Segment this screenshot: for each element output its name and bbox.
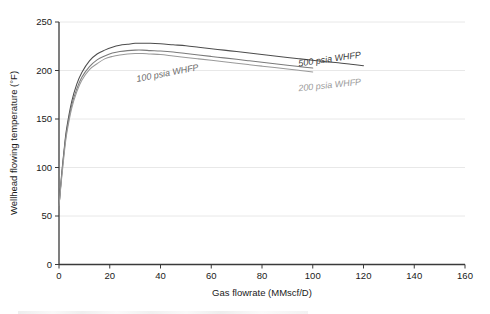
y-tick-label-250: 250: [36, 16, 52, 27]
y-tick-label-0: 0: [47, 259, 52, 270]
x-tick-label-20: 20: [104, 270, 115, 281]
x-tick-label-120: 120: [356, 270, 372, 281]
x-tick-label-40: 40: [155, 270, 166, 281]
y-tick-label-150: 150: [36, 113, 52, 124]
y-axis-title: Wellhead flowing temperature (°F): [8, 71, 19, 215]
chart-figure: 050100150200250 020406080100120140160 50…: [0, 0, 490, 314]
x-tick-label-60: 60: [206, 270, 217, 281]
x-tick-label-140: 140: [406, 270, 422, 281]
x-tick-label-0: 0: [56, 270, 61, 281]
x-tick-label-100: 100: [305, 270, 321, 281]
y-tick-label-100: 100: [36, 162, 52, 173]
x-axis-title: Gas flowrate (MMscf/D): [212, 287, 312, 298]
x-tick-label-160: 160: [457, 270, 473, 281]
chart-background: [0, 0, 490, 314]
y-tick-label-200: 200: [36, 65, 52, 76]
x-tick-label-80: 80: [257, 270, 268, 281]
y-tick-label-50: 50: [41, 210, 52, 221]
